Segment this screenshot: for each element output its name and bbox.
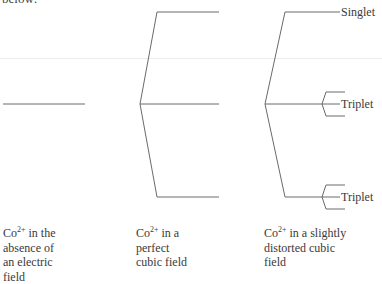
caption-free-ion: Co2+ in the absence of an electric field (3, 226, 56, 284)
caption-perfect-cubic: Co2+ in a perfect cubic field (136, 226, 187, 270)
triplet-label-2: Triplet (341, 190, 373, 204)
singlet-label: Singlet (341, 5, 375, 19)
caption-distorted-cubic: Co2+ in a slightly distorted cubic field (264, 226, 346, 270)
triplet-label-1: Triplet (341, 97, 373, 111)
